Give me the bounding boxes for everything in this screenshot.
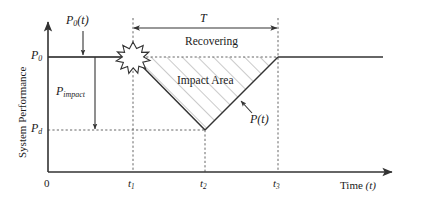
x-origin-label: 0 (44, 177, 50, 189)
x-tick-t3-sub: 3 (276, 183, 280, 191)
x-tick-label-t2: t2 (200, 177, 207, 191)
x-tick-t1-sub: 1 (131, 183, 135, 191)
annotation-pt: P(t) (250, 112, 269, 127)
disruption-burst-icon (116, 42, 150, 73)
annotation-total-time-text: T (200, 11, 207, 25)
x-origin-text: 0 (44, 177, 50, 189)
annotation-p-impact-sub: impact (63, 90, 85, 99)
annotation-recovering-text: Recovering (185, 35, 238, 47)
y-axis-title-text: System Performance (16, 67, 28, 158)
annotation-pt-suffix: (t) (257, 112, 268, 126)
x-tick-label-t3: t3 (273, 177, 280, 191)
annotation-impact-area-text: Impact Area (177, 74, 234, 86)
x-axis-title: Time (t) (340, 179, 376, 191)
y-tick-label-p0: P0 (31, 48, 42, 63)
annotation-p0t-suffix: (t) (77, 13, 88, 27)
x-axis-title-var: (t) (366, 179, 376, 191)
annotation-total-time: T (200, 11, 207, 26)
x-axis-title-text: Time (340, 179, 363, 191)
y-tick-pd-sub: d (38, 127, 42, 136)
x-tick-label-t1: t1 (128, 177, 135, 191)
annotation-p0t: P0(t) (66, 13, 89, 28)
annotation-recovering: Recovering (185, 35, 238, 47)
resilience-diagram-svg (0, 0, 421, 208)
annotation-p-impact: Pimpact (56, 84, 85, 99)
annotation-impact-area: Impact Area (177, 74, 234, 86)
y-tick-label-pd: Pd (31, 121, 42, 136)
x-tick-t2-sub: 2 (203, 183, 207, 191)
figure-canvas: System Performance P0 Pd 0 t1 t2 t3 Time… (0, 0, 421, 208)
y-tick-p0-sub: 0 (38, 54, 42, 63)
y-axis-title: System Performance (16, 67, 28, 158)
